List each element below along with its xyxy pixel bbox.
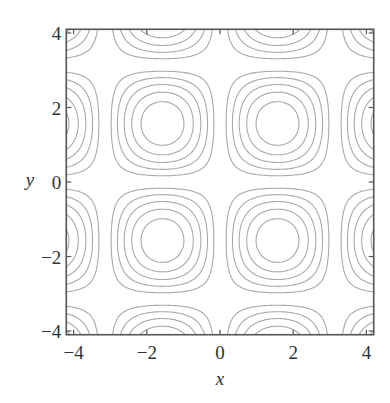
- x-axis-label: x: [215, 368, 225, 389]
- x-axis-ticks: −4−2024: [63, 29, 371, 362]
- y-tick-label: 2: [52, 98, 62, 119]
- contour-level-0.8333: [66, 102, 373, 263]
- x-tick-label: 2: [288, 342, 298, 363]
- y-axis-ticks: −4−2024: [41, 23, 374, 342]
- contour-level--0.6667: [66, 29, 373, 334]
- x-tick-label: 4: [362, 342, 372, 363]
- y-tick-label: 4: [52, 23, 62, 44]
- contour-level--0.1667: [66, 29, 373, 334]
- contour-level-0.1667: [66, 29, 373, 334]
- contour-level--0.8333: [66, 102, 373, 263]
- y-tick-label: −4: [41, 321, 62, 342]
- contour-plot: −4−2024 −4−2024 x y: [0, 0, 390, 403]
- contour-level-0.3333: [66, 29, 373, 334]
- contour-level--0.3333: [66, 29, 373, 334]
- y-tick-label: −2: [41, 247, 61, 268]
- contour-lines: [66, 29, 373, 334]
- x-tick-label: −2: [137, 342, 157, 363]
- axes-frame: [66, 29, 373, 334]
- contour-level-0.5: [66, 29, 373, 334]
- x-tick-label: −4: [63, 342, 84, 363]
- y-tick-label: 0: [52, 172, 62, 193]
- contour-level-0.6667: [66, 29, 373, 334]
- contour-level--0.5: [66, 29, 373, 334]
- y-axis-label: y: [24, 169, 35, 190]
- x-tick-label: 0: [215, 342, 225, 363]
